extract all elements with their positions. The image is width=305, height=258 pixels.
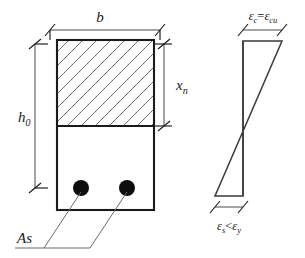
dimension-width-b — [45, 24, 165, 40]
strain-diagram-group — [215, 41, 282, 196]
rebar-left — [73, 180, 89, 196]
label-strain-bottom-operator: < — [225, 219, 232, 233]
rebar-right — [119, 180, 135, 196]
dimension-strain-bottom — [210, 201, 248, 213]
label-strain-top-operator: = — [257, 9, 264, 23]
label-strain-bottom: εs<εy — [217, 219, 241, 235]
strain-profile-outline — [215, 41, 282, 196]
figure-root: b h0 xn As εc=εcu εs<εy — [0, 0, 305, 258]
dimension-neutral-axis-xn — [155, 39, 172, 131]
dimension-effective-depth-h0 — [29, 39, 48, 193]
label-reinforcement-as: As — [16, 230, 32, 246]
label-xn-sub: n — [183, 85, 188, 96]
label-strain-top: εc=εcu — [249, 9, 278, 25]
dimension-strain-top — [238, 24, 287, 36]
label-h0-main: h — [18, 109, 26, 125]
label-strain-top-sub2: cu — [269, 15, 277, 25]
compression-zone-hatching — [39, 0, 305, 168]
label-effective-depth-h0: h0 — [18, 109, 31, 128]
label-strain-bottom-sub2: y — [236, 225, 241, 235]
label-h0-sub: 0 — [26, 117, 31, 128]
engineering-diagram-canvas: b h0 xn As εc=εcu εs<εy — [0, 0, 305, 258]
label-width-b: b — [96, 9, 104, 25]
label-neutral-axis-xn: xn — [175, 77, 188, 96]
